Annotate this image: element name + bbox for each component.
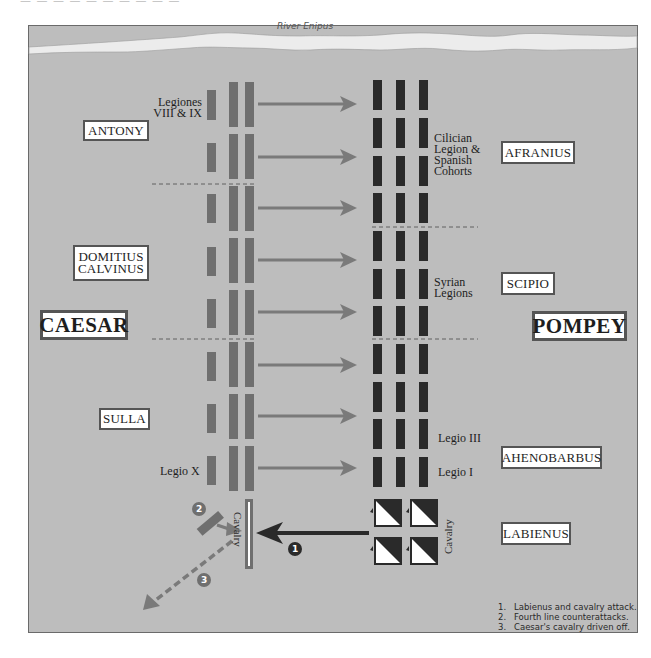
arrow-right-icon xyxy=(258,96,357,112)
arrow-right-icon xyxy=(258,200,357,216)
legend: 1. Labienus and cavalry attack. 2. Fourt… xyxy=(498,602,637,632)
legend-item: 2. Fourth line counterattacks. xyxy=(498,612,637,622)
label-legio-x: Legio X xyxy=(160,466,200,477)
commander-ahenobarbus: AHENOBARBUS xyxy=(501,446,602,469)
label-pompey-cavalry: Cavalry xyxy=(442,519,454,554)
label-legio-i: Legio I xyxy=(438,467,473,478)
commander-caesar: CAESAR xyxy=(40,310,128,340)
river-label: River Enipus xyxy=(277,21,333,31)
arrow-right-icon xyxy=(258,149,357,165)
arrow-right-icon xyxy=(258,252,357,268)
river-enipus xyxy=(29,33,637,54)
label-caesar-cavalry: Cavalry xyxy=(232,512,244,547)
commander-antony: ANTONY xyxy=(83,120,149,141)
label-legio-iii: Legio III xyxy=(438,433,481,444)
legend-item: 1. Labienus and cavalry attack. xyxy=(498,602,637,612)
commander-sulla: SULLA xyxy=(99,408,150,430)
commander-scipio: SCIPIO xyxy=(501,272,555,295)
retreat-arrow xyxy=(143,541,232,610)
marker-1-label: 1 xyxy=(292,544,298,555)
marker-2-label: 2 xyxy=(196,504,202,515)
arrow-right-icon xyxy=(258,304,357,320)
cavalry-square xyxy=(370,500,401,526)
commander-domitius-calvinus: DOMITIUS CALVINUS xyxy=(73,245,149,281)
advance-arrows xyxy=(258,96,357,476)
battle-map-page: — — — — — — — — — — xyxy=(0,0,651,658)
commander-pompey: POMPEY xyxy=(532,311,627,341)
arrow-right-icon xyxy=(258,460,357,476)
cavalry-square xyxy=(406,500,437,526)
cavalry-attack-arrow xyxy=(256,522,369,544)
commander-labienus: LABIENUS xyxy=(501,522,571,545)
arrow-right-icon xyxy=(258,357,357,373)
caesar-second-third-lines xyxy=(229,82,254,491)
marker-3-label: 3 xyxy=(201,575,207,586)
label-cilician-spanish: Cilician Legion & Spanish Cohorts xyxy=(434,133,480,177)
cavalry-square xyxy=(370,538,401,564)
pompey-cavalry-squares xyxy=(370,500,437,564)
legend-item: 3. Caesar's cavalry driven off. xyxy=(498,622,637,632)
cavalry-square xyxy=(406,538,437,564)
caesar-cavalry-unit xyxy=(245,499,253,569)
label-syrian-legions: Syrian Legions xyxy=(434,277,473,299)
commander-afranius: AFRANIUS xyxy=(501,141,575,164)
pompey-lines xyxy=(373,80,428,487)
label-legiones-viii-ix: Legiones VIII & IX xyxy=(152,97,202,119)
caesar-first-line xyxy=(207,90,216,485)
arrow-right-icon xyxy=(258,408,357,424)
